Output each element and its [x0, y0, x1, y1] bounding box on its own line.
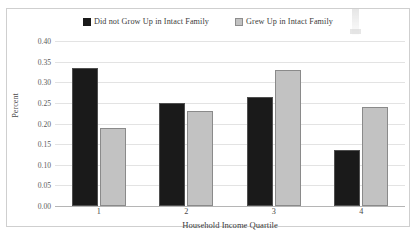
plot-area	[55, 41, 405, 206]
bar-group-quartile-4	[318, 41, 406, 206]
bar-series1-q3	[247, 97, 273, 206]
bar-series1-q2	[159, 103, 185, 206]
y-tick-label: 0.05	[38, 181, 51, 190]
x-axis-title: Household Income Quartile	[55, 220, 405, 230]
bar-group-quartile-2	[143, 41, 231, 206]
y-tick-label: 0.20	[38, 119, 51, 128]
x-tick-label: 2	[143, 207, 231, 219]
y-axis-tick-labels: 0.40 0.35 0.30 0.25 0.20 0.15 0.10 0.05 …	[19, 41, 51, 206]
bar-groups	[55, 41, 405, 206]
bar-series1-q4	[334, 150, 360, 206]
bar-series2-q4	[362, 107, 388, 206]
bar-series2-q3	[275, 70, 301, 206]
x-tick-label: 3	[230, 207, 318, 219]
bar-group-quartile-1	[55, 41, 143, 206]
bar-series2-q2	[187, 111, 213, 206]
x-axis-tick-labels: 1 2 3 4	[55, 207, 405, 219]
chart-frame: Did not Grow Up in Intact Family Grew Up…	[6, 8, 410, 227]
y-tick-label: 0.30	[38, 78, 51, 87]
x-tick-label: 1	[55, 207, 143, 219]
bar-series1-q1	[72, 68, 98, 206]
y-tick-label: 0.35	[38, 57, 51, 66]
y-tick-label: 0.25	[38, 98, 51, 107]
bar-series2-q1	[100, 128, 126, 206]
bar-group-quartile-3	[230, 41, 318, 206]
plot-wrapper: Percent 0.40 0.35 0.30 0.25 0.20 0.15 0.…	[7, 9, 411, 226]
y-tick-label: 0.40	[38, 37, 51, 46]
y-tick-label: 0.00	[38, 202, 51, 211]
y-tick-label: 0.15	[38, 140, 51, 149]
y-tick-label: 0.10	[38, 160, 51, 169]
x-tick-label: 4	[318, 207, 406, 219]
